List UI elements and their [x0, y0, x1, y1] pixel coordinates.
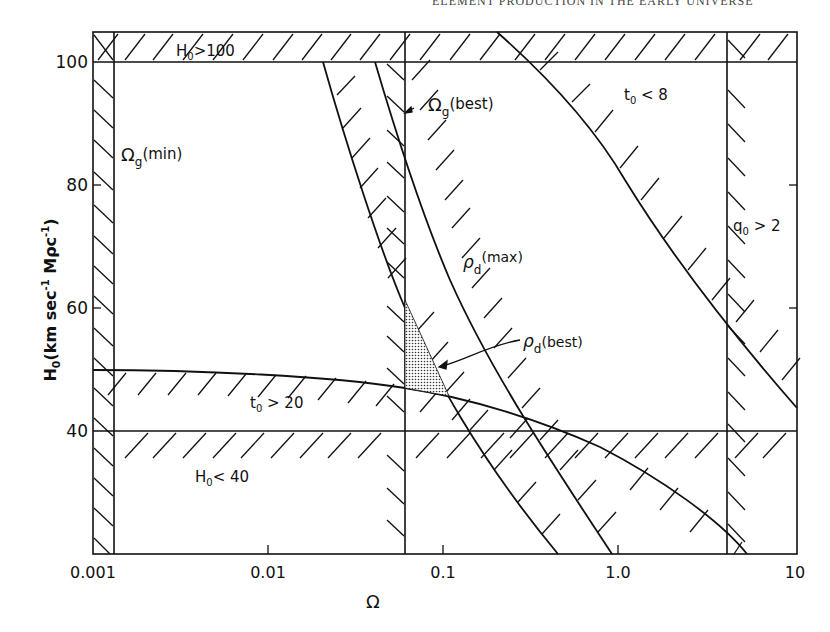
- ytick-100: 100: [56, 52, 88, 72]
- label-q0-gt-2: q0 > 2: [733, 217, 781, 237]
- x-axis-label: Ω: [366, 591, 380, 612]
- label-h-lt-40: H0< 40: [195, 468, 249, 488]
- axis-ticks: [93, 185, 797, 554]
- ytick-40: 40: [66, 421, 88, 441]
- x-tick-labels: 0.001 0.01 0.1 1.0 10: [70, 563, 805, 582]
- y-tick-labels: 100 80 60 40: [56, 52, 88, 441]
- band-q0-gt-2: [727, 32, 745, 554]
- xtick-0.001: 0.001: [70, 563, 116, 582]
- xtick-10: 10: [785, 563, 805, 582]
- ytick-80: 80: [66, 175, 88, 195]
- xtick-0.1: 0.1: [430, 563, 455, 582]
- annotation-arrows: [405, 107, 520, 369]
- curve-rho-d-max: [375, 60, 616, 554]
- xtick-0.01: 0.01: [250, 563, 286, 582]
- svg-text:H0(km sec-1 Mρc-1): H0(km sec-1 Mρc-1): [40, 218, 63, 381]
- band-h-lt-40: [93, 431, 797, 458]
- y-axis-label: H0(km sec-1 Mρc-1): [40, 218, 63, 381]
- label-omega-g-best: Ωg(best): [428, 94, 494, 119]
- ytick-60: 60: [66, 298, 88, 318]
- xtick-1.0: 1.0: [605, 563, 630, 582]
- label-rho-d-max: ρd(max): [463, 249, 523, 277]
- label-omega-g-min: Ωg(min): [121, 144, 182, 169]
- curve-t0-gt-20: [93, 370, 747, 554]
- label-h-gt-100: H0>100: [176, 42, 235, 62]
- band-omega-g-min: [94, 32, 114, 554]
- label-t0-lt-8: t0 < 8: [624, 86, 668, 106]
- label-rho-d-best: ρd(best): [523, 331, 583, 356]
- curve-rho-d-best: [323, 62, 560, 554]
- constraint-chart: 100 80 60 40 0.001 0.01 0.1 1.0 10 Ω H0(…: [0, 0, 830, 632]
